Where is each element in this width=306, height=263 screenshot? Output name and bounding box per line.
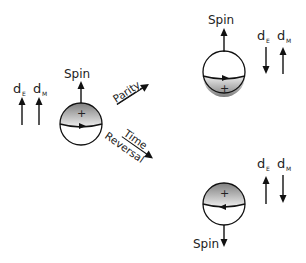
time-reversal-dm-arrow: d M [277, 156, 291, 203]
parity-sphere: + [203, 51, 245, 97]
parity-result-group: Spin + d E d M [203, 13, 291, 97]
original-spin-label: Spin [64, 67, 90, 81]
arrowhead-down-icon [221, 239, 228, 247]
time-reversal-dm-subscript: M [286, 165, 291, 172]
parity-arrow-icon [140, 81, 151, 92]
parity-de-arrow: d E [257, 28, 270, 74]
time-reversal-de-subscript: E [266, 165, 270, 172]
arrowhead-up-icon [263, 176, 270, 184]
original-sphere: + [60, 103, 102, 145]
charge-plus-sign: + [77, 107, 86, 120]
time-reversal-result-group: + Spin d E d M [193, 156, 291, 251]
time-reversal-sphere: + [203, 183, 245, 225]
parity-de-subscript: E [266, 37, 270, 44]
original-de-label: d [13, 81, 21, 96]
arrowhead-up-icon [280, 47, 287, 55]
original-de-subscript: E [22, 90, 26, 97]
parity-dm-arrow: d M [277, 28, 291, 74]
time-reversal-de-label: d [257, 156, 265, 171]
arrowhead-up-icon [221, 28, 228, 36]
parity-dm-label: d [277, 28, 285, 43]
parity-transform: Parity [111, 74, 152, 108]
original-dm-subscript: M [42, 90, 47, 97]
time-reversal-de-arrow: d E [257, 156, 270, 204]
parity-dm-subscript: M [286, 37, 291, 44]
arrowhead-up-icon [36, 97, 43, 105]
charge-plus-sign: + [220, 187, 229, 200]
arrowhead-up-icon [19, 97, 26, 105]
arrowhead-down-icon [263, 66, 270, 74]
original-particle-group: d E d M Spin + [13, 67, 102, 145]
parity-de-label: d [257, 28, 265, 43]
time-reversal-transform: Time Reversal [103, 119, 160, 169]
parity-spin-label: Spin [208, 13, 234, 27]
charge-plus-sign: + [220, 82, 229, 95]
time-reversal-spin-label: Spin [193, 237, 219, 251]
original-de-arrow: d E [13, 81, 26, 125]
edm-symmetry-diagram: d E d M Spin + Parity [0, 0, 306, 263]
arrowhead-down-icon [280, 195, 287, 203]
original-dm-arrow: d M [33, 81, 47, 125]
original-dm-label: d [33, 81, 41, 96]
arrowhead-up-icon [78, 81, 85, 89]
time-reversal-dm-label: d [277, 156, 285, 171]
